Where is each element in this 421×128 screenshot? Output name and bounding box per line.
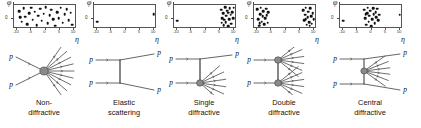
- eta-tick-label: 10: [397, 30, 402, 34]
- plot-area: [13, 4, 76, 28]
- scatter-point: [302, 9, 305, 12]
- scatter-point: [61, 21, 64, 24]
- scatter-plot-single-diffractive: φ0-10-50510η: [164, 0, 244, 46]
- scatter-point: [63, 13, 66, 16]
- scatter-point: [342, 20, 345, 23]
- interaction-diagram-single-diffractive: ppp: [164, 47, 244, 95]
- phi-zero-tick-label: 0: [85, 16, 88, 21]
- scatter-point: [368, 14, 371, 17]
- eta-axis-label: η: [401, 36, 405, 44]
- scatter-point: [56, 11, 59, 14]
- scatter-point: [18, 10, 21, 13]
- incoming-proton-label-bottom: p: [332, 79, 337, 88]
- eta-tick-label: -10: [339, 30, 345, 34]
- eta-tick-label: 0: [43, 30, 45, 34]
- scatter-point: [69, 11, 72, 14]
- outgoing-proton-label-top: p: [156, 48, 161, 57]
- scatter-point: [223, 19, 226, 22]
- scatter-point: [46, 22, 49, 25]
- scatter-point: [265, 8, 268, 11]
- incoming-proton-label-top: p: [332, 54, 337, 63]
- caption-line-2: scattering: [84, 108, 164, 118]
- scatter-point: [311, 12, 314, 15]
- caption-line-2: diffractive: [4, 108, 84, 118]
- scatter-point: [363, 9, 366, 12]
- scatter-point: [311, 22, 314, 25]
- scatter-plot-central-diffractive: φ0-10-50510η: [330, 0, 410, 46]
- eta-tick-label: -10: [173, 30, 179, 34]
- interaction-diagram-elastic-scattering: pppp: [84, 47, 164, 95]
- eta-tick-label: 5: [298, 30, 300, 34]
- scatter-plot-non-diffractive: φ0-10-50510η: [4, 0, 84, 46]
- incoming-proton-label-top: p: [88, 55, 93, 64]
- panel-central-diffractive: φ0-10-50510ηppppCentraldiffractive: [330, 0, 410, 128]
- eta-axis-label: η: [155, 36, 159, 44]
- scatter-point: [222, 24, 225, 27]
- scatter-point: [24, 15, 27, 18]
- eta-tick-label: 5: [138, 30, 140, 34]
- eta-tick-label: -5: [268, 30, 272, 34]
- scatter-point: [221, 21, 224, 24]
- outgoing-proton-label-top: p: [234, 49, 239, 58]
- phi-zero-tick-label: 0: [331, 16, 334, 21]
- scatter-point: [260, 7, 263, 10]
- scatter-point: [222, 12, 225, 15]
- eta-tick-label: 10: [71, 30, 76, 34]
- outgoing-proton-label-bottom: p: [156, 85, 161, 94]
- scatter-point: [20, 21, 23, 24]
- caption-line-1: Elastic: [113, 98, 135, 107]
- scatter-point: [232, 7, 235, 10]
- diffraction-process-figure: φ0-10-50510ηppNon-diffractiveφ0-10-50510…: [0, 0, 421, 128]
- incoming-proton-label-top: p: [246, 55, 251, 64]
- scatter-point: [304, 18, 307, 21]
- scatter-point: [262, 10, 265, 13]
- scatter-point: [257, 18, 260, 21]
- eta-axis-label: η: [75, 36, 79, 44]
- scatter-point: [365, 23, 368, 26]
- caption-elastic-scattering: Elasticscattering: [84, 98, 164, 118]
- scatter-point: [52, 18, 55, 21]
- scatter-point: [35, 24, 38, 27]
- eta-tick-label: -10: [13, 30, 19, 34]
- scatter-point: [364, 13, 367, 16]
- plot-area: [253, 4, 316, 28]
- scatter-point: [54, 24, 57, 27]
- eta-tick-label: 5: [58, 30, 60, 34]
- caption-non-diffractive: Non-diffractive: [4, 98, 84, 118]
- caption-central-diffractive: Centraldiffractive: [330, 98, 410, 118]
- scatter-point: [19, 16, 22, 19]
- scatter-point: [44, 6, 47, 9]
- scatter-point: [230, 22, 233, 25]
- scatter-point: [305, 7, 308, 10]
- interaction-diagram-central-diffractive: pppp: [330, 47, 410, 95]
- scatter-point: [309, 7, 312, 10]
- scatter-point: [227, 11, 230, 14]
- eta-tick-label: -5: [188, 30, 192, 34]
- scatter-point: [28, 12, 31, 15]
- scatter-point: [50, 9, 53, 12]
- scatter-point: [40, 20, 43, 23]
- caption-double-diffractive: Doublediffractive: [244, 98, 324, 118]
- scatter-point: [256, 8, 259, 11]
- scatter-plot-elastic-scattering: φ0-10-50510η: [84, 0, 164, 46]
- incoming-proton-label-top: p: [168, 54, 173, 63]
- scatter-point: [231, 11, 234, 14]
- scatter-point: [152, 13, 155, 16]
- eta-tick-label: -5: [28, 30, 32, 34]
- eta-tick-label: 0: [203, 30, 205, 34]
- eta-tick-label: -5: [108, 30, 112, 34]
- scatter-point: [96, 21, 99, 24]
- scatter-point: [377, 19, 380, 22]
- interaction-diagram-double-diffractive: pp: [244, 47, 324, 95]
- eta-axis-label: η: [315, 36, 319, 44]
- incoming-proton-label-bottom: p: [88, 78, 93, 87]
- scatter-point: [22, 7, 25, 10]
- scatter-point: [225, 14, 228, 17]
- scatter-point: [220, 9, 223, 12]
- scatter-point: [308, 24, 311, 27]
- outgoing-proton-label-bottom: p: [402, 85, 407, 94]
- scatter-point: [229, 13, 232, 16]
- caption-line-2: diffractive: [330, 108, 410, 118]
- scatter-point: [263, 23, 266, 26]
- panel-double-diffractive: φ0-10-50510ηppDoublediffractive: [244, 0, 324, 128]
